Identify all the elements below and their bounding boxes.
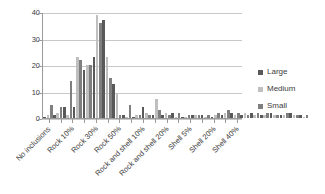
legend-item-label: Small [267,102,287,110]
legend-item-large[interactable]: Large [258,68,295,76]
legend-item-label: Medium [267,85,295,93]
legend-item-small[interactable]: Small [258,102,295,110]
legend-swatch-icon [258,104,263,109]
legend-swatch-icon [258,87,263,92]
legend: LargeMediumSmall [258,68,295,110]
legend-item-medium[interactable]: Medium [258,85,295,93]
x-axis-tick-label: No inclusions [15,125,52,162]
legend-item-label: Large [267,68,287,76]
legend-swatch-icon [258,70,263,75]
bar-chart: 010203040 No inclusionsRock 10%Rock 30%R… [0,0,325,194]
